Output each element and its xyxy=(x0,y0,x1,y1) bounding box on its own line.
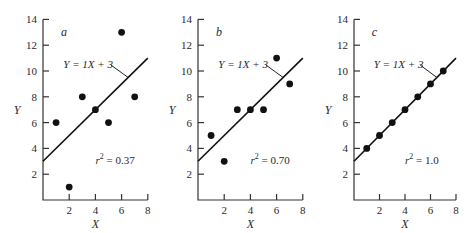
x-tick-label: 2 xyxy=(221,204,227,216)
y-axis-label: Y xyxy=(169,103,177,117)
y-tick-label: 10 xyxy=(337,65,349,77)
x-axis-label: X xyxy=(400,217,409,231)
data-point xyxy=(363,145,370,152)
data-point xyxy=(234,106,241,113)
panel-b: 24681012142468XYbY = 1X + 3r2 = 0.70 xyxy=(169,13,306,231)
equation-leader-line xyxy=(111,65,128,77)
y-tick-label: 4 xyxy=(187,142,193,154)
data-point xyxy=(105,119,112,126)
data-point xyxy=(53,119,60,126)
y-tick-label: 12 xyxy=(181,39,192,51)
data-point xyxy=(414,93,421,100)
r-squared-label: r2 = 1.0 xyxy=(405,152,439,166)
y-tick-label: 8 xyxy=(187,91,193,103)
y-tick-label: 10 xyxy=(26,65,38,77)
x-axis-label: X xyxy=(91,217,100,231)
y-tick-label: 6 xyxy=(32,117,38,129)
data-point xyxy=(389,119,396,126)
x-tick-label: 6 xyxy=(428,204,434,216)
equation-leader-line xyxy=(266,65,283,77)
data-point xyxy=(260,106,267,113)
x-tick-label: 2 xyxy=(377,204,383,216)
x-tick-label: 6 xyxy=(119,204,125,216)
equation-leader-line xyxy=(420,65,437,77)
data-point xyxy=(131,93,138,100)
x-tick-label: 2 xyxy=(66,204,72,216)
panel-letter: b xyxy=(216,25,222,39)
y-tick-label: 2 xyxy=(32,168,38,180)
equation-label: Y = 1X + 3 xyxy=(218,58,268,70)
panel-c: 24681012142468XYcY = 1X + 3r2 = 1.0 xyxy=(325,13,460,231)
data-point xyxy=(427,81,434,88)
r-squared-label: r2 = 0.70 xyxy=(250,152,290,166)
regression-comparison-figure: 24681012142468XYaY = 1X + 3r2 = 0.372468… xyxy=(0,0,475,233)
equation-label: Y = 1X + 3 xyxy=(63,58,113,70)
data-point xyxy=(402,106,409,113)
x-tick-label: 8 xyxy=(453,204,459,216)
data-point xyxy=(247,106,254,113)
equation-label: Y = 1X + 3 xyxy=(374,58,424,70)
x-axis-label: X xyxy=(246,217,255,231)
x-tick-label: 4 xyxy=(402,204,408,216)
y-tick-label: 2 xyxy=(187,168,193,180)
y-tick-label: 14 xyxy=(26,13,38,25)
y-tick-label: 8 xyxy=(343,91,349,103)
data-point xyxy=(286,81,293,88)
y-tick-label: 10 xyxy=(181,65,193,77)
y-axis-label: Y xyxy=(325,103,333,117)
y-tick-label: 14 xyxy=(337,13,349,25)
y-tick-label: 4 xyxy=(343,142,349,154)
y-tick-label: 8 xyxy=(32,91,38,103)
data-point xyxy=(221,158,228,165)
x-tick-label: 8 xyxy=(300,204,306,216)
x-tick-label: 8 xyxy=(145,204,151,216)
data-point xyxy=(376,132,383,139)
x-tick-label: 6 xyxy=(274,204,280,216)
y-tick-label: 6 xyxy=(343,117,349,129)
y-tick-label: 6 xyxy=(187,117,193,129)
data-point xyxy=(208,132,215,139)
panel-letter: c xyxy=(372,25,378,39)
panel-letter: a xyxy=(61,25,67,39)
r-squared-label: r2 = 0.37 xyxy=(95,152,135,166)
y-axis-label: Y xyxy=(14,103,22,117)
data-point xyxy=(440,68,447,75)
y-tick-label: 12 xyxy=(337,39,348,51)
x-tick-label: 4 xyxy=(248,204,254,216)
data-point xyxy=(92,106,99,113)
y-tick-label: 14 xyxy=(181,13,193,25)
data-point xyxy=(118,29,125,36)
data-point xyxy=(79,93,86,100)
y-tick-label: 12 xyxy=(26,39,37,51)
y-tick-label: 2 xyxy=(343,168,349,180)
y-tick-label: 4 xyxy=(32,142,38,154)
data-point xyxy=(273,55,280,62)
x-tick-label: 4 xyxy=(93,204,99,216)
data-point xyxy=(66,184,73,191)
panel-a: 24681012142468XYaY = 1X + 3r2 = 0.37 xyxy=(14,13,151,231)
